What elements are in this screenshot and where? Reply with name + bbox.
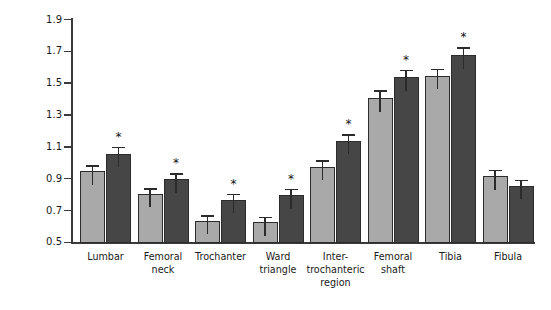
error-bar-cap [201, 215, 214, 216]
error-bar-cap [170, 173, 183, 174]
x-axis-category-label-line: neck [114, 263, 212, 276]
bar-group: * [310, 14, 361, 243]
y-axis-tick-label: 1.3 [36, 110, 62, 120]
bar-group: * [195, 14, 246, 243]
error-bar [233, 194, 234, 214]
bar-dark [451, 55, 476, 243]
bar-light [425, 76, 450, 243]
significance-marker: * [227, 179, 241, 189]
y-axis-tick-label: 0.7 [36, 206, 62, 216]
error-bar [175, 173, 176, 193]
error-bar [118, 147, 119, 167]
y-axis-tick-label: 1.1 [36, 142, 62, 152]
bar-group: * [80, 14, 131, 243]
error-bar-cap [400, 70, 413, 71]
significance-marker: * [284, 174, 298, 184]
error-bar-cap [342, 134, 355, 135]
error-bar [92, 165, 93, 185]
error-bar [437, 69, 438, 89]
significance-marker: * [342, 119, 356, 129]
bar-light [368, 98, 393, 243]
bar-group: * [368, 14, 419, 243]
error-bar [494, 170, 495, 190]
error-bar-cap [227, 194, 240, 195]
x-axis-category-label-line: shaft [344, 263, 442, 276]
error-bar-cap [515, 180, 528, 181]
error-bar [348, 134, 349, 154]
y-axis-tick-label: 1.9 [36, 15, 62, 25]
error-bar-cap [457, 47, 470, 48]
error-bar-cap [259, 217, 272, 218]
significance-marker: * [457, 32, 471, 42]
error-bar-cap [374, 90, 387, 91]
error-bar [520, 180, 521, 200]
error-bar-cap [431, 69, 444, 70]
error-bar [405, 70, 406, 91]
bar-group: * [138, 14, 189, 243]
y-axis-tick-label: 0.9 [36, 174, 62, 184]
x-axis-category-label: Fibula [459, 250, 551, 263]
error-bar-cap [144, 188, 157, 189]
error-bar-cap [489, 170, 502, 171]
x-axis-category-label-line: Fibula [459, 250, 551, 263]
significance-marker: * [399, 55, 413, 65]
error-bar [264, 217, 265, 236]
error-bar [149, 188, 150, 207]
bar-group [483, 14, 534, 243]
y-axis-tick-label: 1.5 [36, 78, 62, 88]
bar-dark [336, 141, 361, 243]
error-bar [463, 47, 464, 68]
plot-area: ******* [72, 14, 535, 243]
error-bar-cap [86, 165, 99, 166]
bar-dark [394, 77, 419, 243]
error-bar-cap [112, 147, 125, 148]
bar-chart: Bone mineral density (g·cm-2) 1.91.71.51… [0, 0, 551, 310]
error-bar [207, 215, 208, 234]
y-axis-tick-label: 1.7 [36, 46, 62, 56]
y-axis-tick-label: 0.5 [36, 237, 62, 247]
error-bar [322, 160, 323, 180]
error-bar [379, 90, 380, 111]
x-axis-category-label-line: region [287, 276, 385, 289]
significance-marker: * [112, 132, 126, 142]
bar-group: * [425, 14, 476, 243]
significance-marker: * [169, 158, 183, 168]
error-bar-cap [316, 160, 329, 161]
error-bar-cap [285, 189, 298, 190]
bar-group: * [253, 14, 304, 243]
error-bar [290, 189, 291, 209]
y-axis-tick-labels: 1.91.71.51.31.10.90.70.5 [30, 0, 62, 310]
